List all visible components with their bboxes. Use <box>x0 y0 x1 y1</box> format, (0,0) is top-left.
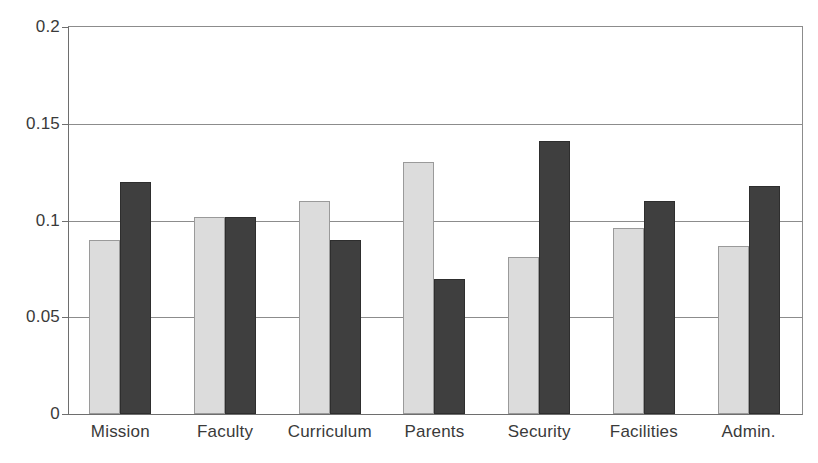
bar-faculty-series-2[interactable] <box>225 217 256 414</box>
y-axis-tick-label: 0.2 <box>4 18 60 35</box>
y-axis-tick-label: 0 <box>4 405 60 422</box>
y-axis-tick-mark <box>62 27 69 28</box>
bar-security-series-1[interactable] <box>508 257 539 414</box>
x-axis-tick-label: Facilities <box>592 420 697 444</box>
x-axis-tick-label: Parents <box>382 420 487 444</box>
bar-parents-series-1[interactable] <box>403 162 434 414</box>
x-axis-tick-label: Faculty <box>173 420 278 444</box>
y-axis-tick-mark <box>62 317 69 318</box>
bar-security-series-2[interactable] <box>539 141 570 414</box>
y-axis-tick-mark <box>62 221 69 222</box>
bar-curriculum-series-2[interactable] <box>330 240 361 414</box>
bar-group <box>174 27 279 414</box>
x-axis-tick-label: Admin. <box>696 420 801 444</box>
bar-group <box>488 27 593 414</box>
bars-layer <box>69 27 802 414</box>
bar-admin-series-2[interactable] <box>749 186 780 414</box>
bar-curriculum-series-1[interactable] <box>299 201 330 414</box>
y-axis-tick-mark <box>62 124 69 125</box>
bar-mission-series-2[interactable] <box>120 182 151 414</box>
y-axis-tick-label: 0.1 <box>4 211 60 228</box>
y-axis-tick-labels: 00.050.10.150.2 <box>0 0 60 463</box>
y-axis-tick-mark <box>62 414 69 415</box>
bar-group <box>278 27 383 414</box>
bar-admin-series-1[interactable] <box>718 246 749 414</box>
bar-group <box>69 27 174 414</box>
x-axis-tick-labels: MissionFacultyCurriculumParentsSecurityF… <box>0 420 818 460</box>
bar-group <box>697 27 802 414</box>
bar-group <box>383 27 488 414</box>
bar-mission-series-1[interactable] <box>89 240 120 414</box>
bar-facilities-series-1[interactable] <box>613 228 644 414</box>
bar-faculty-series-1[interactable] <box>194 217 225 414</box>
x-axis-tick-label: Mission <box>68 420 173 444</box>
plot-area <box>68 26 803 415</box>
x-axis-tick-label: Security <box>487 420 592 444</box>
bar-parents-series-2[interactable] <box>434 279 465 414</box>
y-axis-tick-label: 0.15 <box>4 114 60 131</box>
y-axis-tick-label: 0.05 <box>4 308 60 325</box>
bar-facilities-series-2[interactable] <box>644 201 675 414</box>
bar-group <box>593 27 698 414</box>
x-axis-tick-label: Curriculum <box>277 420 382 444</box>
bar-chart: 00.050.10.150.2 MissionFacultyCurriculum… <box>0 0 818 463</box>
